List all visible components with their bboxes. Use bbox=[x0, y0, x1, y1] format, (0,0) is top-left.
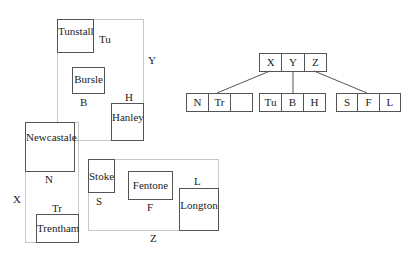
tree-cell: L bbox=[380, 94, 400, 111]
tree-cell: Tr bbox=[209, 94, 231, 111]
tree-cell: X bbox=[260, 54, 282, 71]
tree-cell: Z bbox=[305, 54, 326, 71]
tree-cell: Y bbox=[282, 54, 304, 71]
tree-cell: S bbox=[337, 94, 358, 111]
tree-cell bbox=[231, 94, 252, 111]
tree-root-node: X Y Z bbox=[259, 53, 327, 72]
tree-cell: B bbox=[282, 94, 304, 111]
tree-cell: F bbox=[358, 94, 379, 111]
tree-cell: H bbox=[304, 94, 325, 111]
tree-leaf-z: S F L bbox=[336, 93, 401, 112]
tree-leaf-x: N Tr bbox=[186, 93, 253, 112]
tree-cell: Tu bbox=[260, 94, 282, 111]
tree-edges bbox=[0, 0, 416, 261]
tree-cell: N bbox=[187, 94, 209, 111]
tree-leaf-y: Tu B H bbox=[259, 93, 326, 112]
